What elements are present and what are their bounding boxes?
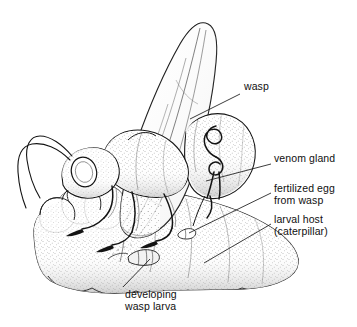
label-wasp: wasp: [244, 80, 269, 93]
parasitoid-wasp-diagram: wasp venom gland fertilized egg from was…: [0, 0, 357, 327]
label-fertilized-egg-line1: fertilized egg: [274, 182, 335, 195]
label-fertilized-egg-line2: from wasp: [274, 194, 323, 207]
label-developing-wasp-larva-line2: wasp larva: [125, 300, 176, 313]
label-venom-gland: venom gland: [274, 152, 335, 165]
label-larval-host-line2: (caterpillar): [274, 225, 328, 238]
label-larval-host-line1: larval host: [274, 213, 323, 226]
label-developing-wasp-larva-line1: developing: [125, 288, 177, 301]
